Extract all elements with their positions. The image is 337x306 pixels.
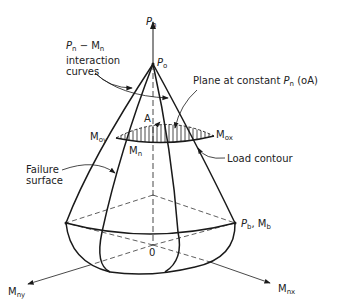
- point-a-label: A: [144, 113, 151, 124]
- po-label: Po: [157, 57, 167, 72]
- mox-label: Mox: [216, 129, 233, 144]
- plane-label: Plane at constant Pn (oA): [193, 75, 318, 90]
- pb-mb-label: Pb, Mb: [241, 218, 271, 233]
- interaction-curves-label: Pn − Mn interaction curves: [66, 40, 120, 77]
- mx-my-axes: [28, 195, 270, 284]
- interaction-curves: [66, 64, 235, 274]
- moy-label: Moy: [90, 131, 107, 146]
- pn-axis-label: Pn: [146, 16, 156, 31]
- origin-label: 0: [149, 247, 155, 258]
- mnx-axis-label: Mnx: [278, 283, 295, 298]
- load-contour-label: Load contour: [227, 153, 293, 164]
- mny-axis-label: Mny: [8, 286, 25, 301]
- mn-label: Mn: [129, 145, 142, 160]
- failure-surface-label: Failure surface: [26, 164, 63, 186]
